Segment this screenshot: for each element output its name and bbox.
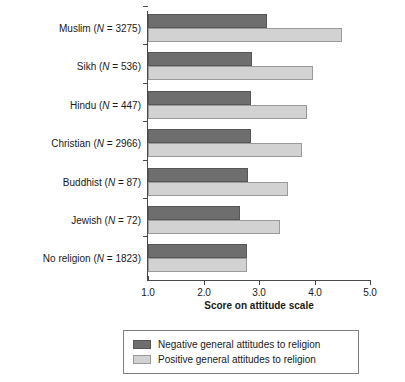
category-name: Hindu	[70, 100, 99, 111]
category-sample-size: (N = 1823)	[93, 253, 141, 264]
category-sample-size: (N = 2966)	[93, 138, 141, 149]
category-name: Buddhist	[63, 177, 105, 188]
bar-negative	[148, 168, 248, 182]
bar-chart-figure: Score on attitude scale Negative general…	[0, 0, 405, 382]
category-sample-size: (N = 87)	[105, 177, 141, 188]
legend-item-positive: Positive general attitudes to religion	[133, 352, 350, 367]
y-axis-tick	[143, 6, 148, 7]
category-label: No religion (N = 1823)	[0, 253, 141, 264]
bar-positive	[148, 28, 342, 42]
category-name: Muslim	[59, 23, 93, 34]
category-label: Hindu (N = 447)	[0, 100, 141, 111]
category-sample-size: (N = 3275)	[93, 23, 141, 34]
bar-positive	[148, 182, 288, 196]
bar-negative	[148, 244, 247, 258]
category-sample-size: (N = 447)	[99, 100, 141, 111]
category-name: No religion	[43, 253, 94, 264]
category-label: Sikh (N = 536)	[0, 61, 141, 72]
dark-gray-swatch-icon	[133, 340, 151, 349]
bar-negative	[148, 206, 240, 220]
bar-negative	[148, 52, 252, 66]
x-axis-tick	[370, 281, 371, 285]
legend-label-negative: Negative general attitudes to religion	[158, 339, 320, 350]
x-axis-tick	[315, 281, 316, 285]
x-axis-title: Score on attitude scale	[148, 300, 370, 311]
x-axis-tick-label: 5.0	[363, 287, 376, 298]
legend-item-negative: Negative general attitudes to religion	[133, 337, 350, 352]
y-axis-tick	[143, 198, 148, 199]
bar-negative	[148, 91, 251, 105]
x-axis-tick-label: 4.0	[308, 287, 321, 298]
x-axis-tick	[204, 281, 205, 285]
x-axis-tick	[259, 281, 260, 285]
legend-label-positive: Positive general attitudes to religion	[158, 354, 316, 365]
category-label: Christian (N = 2966)	[0, 138, 141, 149]
y-axis-tick	[143, 160, 148, 161]
category-sample-size: (N = 72)	[105, 215, 141, 226]
bar-negative	[148, 14, 267, 28]
bar-negative	[148, 129, 251, 143]
bar-positive	[148, 220, 280, 234]
bar-positive	[148, 105, 307, 119]
category-name: Christian	[51, 138, 93, 149]
category-sample-size: (N = 536)	[99, 61, 141, 72]
y-axis-tick	[143, 44, 148, 45]
y-axis-tick	[143, 121, 148, 122]
y-axis-tick	[143, 236, 148, 237]
category-label: Buddhist (N = 87)	[0, 177, 141, 188]
x-axis-tick-label: 1.0	[141, 287, 154, 298]
x-axis-tick-label: 2.0	[197, 287, 210, 298]
category-label: Jewish (N = 72)	[0, 215, 141, 226]
bar-positive	[148, 258, 247, 272]
x-axis-tick	[148, 276, 149, 281]
category-label: Muslim (N = 3275)	[0, 23, 141, 34]
bar-positive	[148, 66, 313, 80]
y-axis-tick	[143, 83, 148, 84]
category-name: Sikh	[77, 61, 99, 72]
light-gray-swatch-icon	[133, 355, 151, 364]
bar-positive	[148, 143, 302, 157]
chart-legend: Negative general attitudes to religion P…	[123, 330, 359, 374]
x-axis-tick-label: 3.0	[252, 287, 265, 298]
category-name: Jewish	[71, 215, 104, 226]
